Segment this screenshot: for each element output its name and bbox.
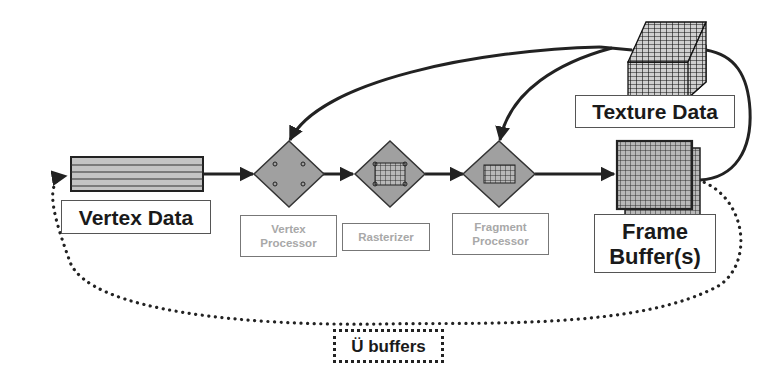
frame-buffer-text-2: Buffer(s) (609, 244, 701, 269)
rasterizer-text: Rasterizer (358, 230, 414, 244)
vertex-data-text: Vertex Data (79, 206, 193, 229)
rasterizer-icon (355, 141, 425, 207)
vertex-data-label: Vertex Data (61, 200, 211, 234)
vertex-processor-text-1: Vertex (271, 222, 306, 236)
vertex-processor-text-2: Processor (260, 236, 316, 250)
vertex-processor-label: Vertex Processor (240, 215, 337, 257)
fragment-processor-label: Fragment Processor (452, 213, 549, 255)
frame-buffer-label: Frame Buffer(s) (594, 214, 716, 273)
texture-data-label: Texture Data (575, 95, 735, 128)
fragment-processor-text-2: Processor (472, 234, 528, 248)
edge-texture-vertexproc (290, 47, 600, 140)
frame-buffer-icon (617, 141, 700, 216)
pipeline-diagram (0, 0, 771, 383)
vertex-data-icon (71, 157, 203, 191)
vertex-processor-icon (254, 141, 324, 207)
rasterizer-label: Rasterizer (342, 223, 430, 251)
texture-data-text: Texture Data (592, 100, 718, 123)
texture-data-icon (628, 22, 706, 98)
fragment-processor-icon (463, 141, 535, 207)
frame-buffer-text-1: Frame (622, 219, 688, 244)
buffers-label: Ü buffers (333, 329, 444, 363)
buffers-text: Ü buffers (351, 335, 426, 358)
fragment-processor-text-1: Fragment (474, 220, 526, 234)
